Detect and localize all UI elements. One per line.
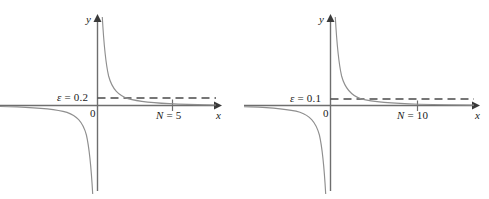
threshold-value: = 10	[405, 109, 429, 121]
origin-label: 0	[323, 108, 329, 119]
chart-panel-left: y x 0 ε = 0.2 N = 5	[0, 0, 245, 199]
x-axis-label: x	[475, 110, 480, 121]
y-axis-right	[327, 14, 335, 191]
curve-branch-negative-left	[0, 106, 93, 194]
chart-panel-right: y x 0 ε = 0.1 N = 10	[244, 0, 489, 199]
epsilon-label: ε = 0.2	[57, 92, 88, 103]
threshold-label: N = 10	[397, 110, 428, 121]
epsilon-value: = 0.1	[295, 92, 322, 104]
curve-branch-negative-right	[244, 107, 326, 194]
figure-root: y x 0 ε = 0.2 N = 5	[0, 0, 489, 199]
chart-svg-right	[244, 0, 489, 199]
epsilon-label: ε = 0.1	[290, 93, 321, 104]
curve-branch-positive-right	[335, 17, 474, 105]
threshold-label: N = 5	[156, 110, 182, 121]
origin-label: 0	[90, 108, 96, 119]
x-axis-label: x	[216, 110, 221, 121]
y-axis-label: y	[86, 14, 91, 25]
chart-svg-left	[0, 0, 245, 199]
threshold-value: = 5	[164, 109, 182, 121]
y-axis-label: y	[319, 14, 324, 25]
curve-branch-positive-left	[102, 17, 216, 105]
threshold-symbol: N	[397, 109, 405, 121]
epsilon-value: = 0.2	[62, 91, 89, 103]
y-axis-left	[94, 14, 102, 191]
threshold-symbol: N	[156, 109, 164, 121]
